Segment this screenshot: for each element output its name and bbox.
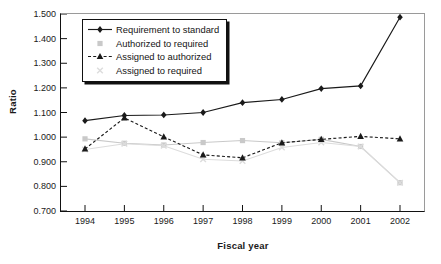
y-axis-tick-label: 0.900 <box>16 157 56 167</box>
legend-marker-diamond-icon <box>87 23 113 36</box>
legend-marker-triangle-icon <box>87 50 113 63</box>
chart-legend: Requirement to standardAuthorized to req… <box>82 19 227 82</box>
data-point-marker <box>97 41 102 46</box>
y-axis-tick-label: 0.800 <box>16 181 56 191</box>
y-axis-tick-label: 1.400 <box>16 34 56 44</box>
data-point-marker <box>279 96 285 103</box>
y-axis-tick-label: 0.700 <box>16 206 56 216</box>
data-point-marker <box>161 112 167 119</box>
series-assigned-to-authorized <box>82 114 404 160</box>
data-point-marker <box>318 85 324 92</box>
y-axis-tick-label: 1.200 <box>16 83 56 93</box>
x-axis-tick-label: 1994 <box>75 216 95 226</box>
legend-label: Requirement to standard <box>113 24 219 35</box>
legend-item: Requirement to standard <box>87 23 219 37</box>
legend-label: Authorized to required <box>113 38 208 49</box>
legend-label: Assigned to authorized <box>113 51 211 62</box>
data-point-marker <box>82 117 88 124</box>
data-point-marker <box>97 26 103 33</box>
data-point-marker <box>82 136 87 141</box>
x-axis-tick-label: 2000 <box>311 216 331 226</box>
data-point-marker <box>200 109 206 116</box>
x-axis-tick-label: 2002 <box>390 216 410 226</box>
legend-item: Assigned to required <box>87 64 219 78</box>
legend-marker-square-icon <box>87 37 113 50</box>
data-point-marker <box>240 138 245 143</box>
x-axis-tick-label: 1998 <box>232 216 252 226</box>
x-axis-title: Fiscal year <box>60 240 426 251</box>
data-point-marker <box>97 53 104 59</box>
x-axis-tick-label: 2001 <box>351 216 371 226</box>
series-line <box>85 118 400 158</box>
data-point-marker <box>160 133 167 139</box>
series-assigned-to-required <box>82 140 403 186</box>
y-axis-tick-labels: 0.7000.8000.9001.0001.1001.2001.3001.400… <box>10 0 56 264</box>
y-axis-tick-label: 1.100 <box>16 108 56 118</box>
legend-marker-x-icon <box>87 64 113 77</box>
data-point-marker <box>200 151 207 157</box>
series-line <box>85 143 400 183</box>
x-axis-tick-label: 1996 <box>154 216 174 226</box>
data-point-marker <box>240 99 246 106</box>
data-point-marker <box>357 133 364 139</box>
x-axis-tick-label: 1999 <box>272 216 292 226</box>
y-axis-tick-label: 1.500 <box>16 9 56 19</box>
x-axis-tick-label: 1997 <box>193 216 213 226</box>
data-point-marker <box>201 140 206 145</box>
legend-item: Authorized to required <box>87 37 219 51</box>
legend-item: Assigned to authorized <box>87 50 219 64</box>
chart-figure: Ratio Fiscal year 0.7000.8000.9001.0001.… <box>0 0 441 264</box>
legend-label: Assigned to required <box>113 65 202 76</box>
y-axis-tick-label: 1.300 <box>16 58 56 68</box>
y-axis-tick-label: 1.000 <box>16 132 56 142</box>
data-point-marker <box>122 112 128 119</box>
x-axis-tick-label: 1995 <box>114 216 134 226</box>
